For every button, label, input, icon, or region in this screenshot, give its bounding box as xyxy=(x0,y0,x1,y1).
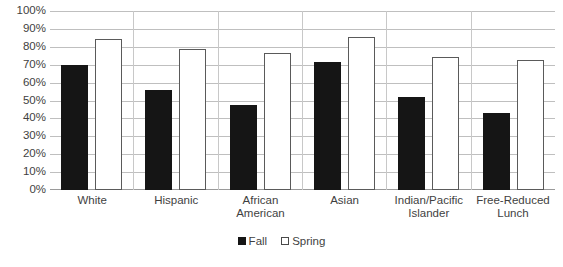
bar-slot-fall xyxy=(230,11,257,190)
bar-slot-spring xyxy=(348,11,375,190)
bar-group-african-american xyxy=(219,11,303,190)
legend-item-fall: Fall xyxy=(238,235,268,247)
bar-slot-spring xyxy=(432,11,459,190)
bar-group-asian xyxy=(303,11,387,190)
bar-fall xyxy=(398,97,425,190)
bar-chart: 100% 90% 80% 70% 60% 50% 40% 30% 20% 10%… xyxy=(0,0,563,267)
bar-slot-fall xyxy=(398,11,425,190)
bar-fall xyxy=(145,90,172,190)
x-axis-category-label: White xyxy=(50,194,134,220)
y-axis-tick-label: 20% xyxy=(2,148,46,160)
x-axis-category-label: Asian xyxy=(303,194,387,220)
y-axis-tick-label: 0% xyxy=(2,184,46,196)
bar-fall xyxy=(483,113,510,190)
bar-spring xyxy=(264,53,291,190)
bar-slot-fall xyxy=(483,11,510,190)
bar-gap xyxy=(341,11,348,190)
bar-gap xyxy=(172,11,179,190)
bar-fall xyxy=(314,62,341,190)
bar-spring xyxy=(432,57,459,191)
y-axis-tick-label: 40% xyxy=(2,112,46,124)
y-axis-tick-label: 50% xyxy=(2,95,46,107)
legend-swatch-fall-icon xyxy=(238,237,246,245)
bar-slot-spring xyxy=(264,11,291,190)
y-axis-tick-label: 10% xyxy=(2,166,46,178)
bar-spring xyxy=(517,60,544,190)
bar-slot-fall xyxy=(314,11,341,190)
x-axis-category-label: Free-Reduced Lunch xyxy=(471,194,555,220)
bar-fall xyxy=(230,105,257,190)
bar-gap xyxy=(510,11,517,190)
bar-group-hispanic xyxy=(134,11,218,190)
bar-group-white xyxy=(50,11,134,190)
bar-gap xyxy=(88,11,95,190)
bar-slot-fall xyxy=(61,11,88,190)
bar-gap xyxy=(257,11,264,190)
chart-legend: Fall Spring xyxy=(0,235,563,247)
y-axis-tick-label: 60% xyxy=(2,77,46,89)
y-axis-tick-label: 90% xyxy=(2,23,46,35)
x-axis-labels: White Hispanic African American Asian In… xyxy=(50,194,555,220)
bar-slot-spring xyxy=(517,11,544,190)
bar-spring xyxy=(348,37,375,190)
y-axis-tick-label: 100% xyxy=(2,5,46,17)
y-axis: 100% 90% 80% 70% 60% 50% 40% 30% 20% 10%… xyxy=(0,11,46,190)
x-axis-category-label: Hispanic xyxy=(134,194,218,220)
bar-gap xyxy=(425,11,432,190)
y-axis-tick-label: 30% xyxy=(2,130,46,142)
legend-swatch-spring-icon xyxy=(281,237,289,245)
legend-label-fall: Fall xyxy=(249,235,268,247)
y-axis-tick-label: 70% xyxy=(2,59,46,71)
legend-item-spring: Spring xyxy=(281,235,325,247)
y-axis-tick-label: 80% xyxy=(2,41,46,53)
x-axis-category-label: African American xyxy=(218,194,302,220)
bar-fall xyxy=(61,65,88,190)
bar-slot-spring xyxy=(95,11,122,190)
legend-label-spring: Spring xyxy=(292,235,325,247)
bar-slot-spring xyxy=(179,11,206,190)
bar-spring xyxy=(95,39,122,190)
bar-group-indian-pacific-islander xyxy=(387,11,471,190)
bar-slot-fall xyxy=(145,11,172,190)
bar-spring xyxy=(179,49,206,190)
bar-group-free-reduced-lunch xyxy=(472,11,555,190)
bar-groups xyxy=(50,11,555,190)
x-axis-category-label: Indian/Pacific Islander xyxy=(387,194,471,220)
